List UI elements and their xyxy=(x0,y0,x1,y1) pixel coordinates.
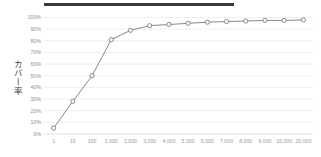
x-axis-tick-label: 100 xyxy=(88,138,97,144)
data-point-marker xyxy=(128,28,132,32)
y-axis-tick-label: 40% xyxy=(31,84,42,90)
y-axis-tick-label: 50% xyxy=(31,73,42,79)
x-axis-tick-label: 1,000 xyxy=(105,138,118,144)
data-point-marker xyxy=(71,99,75,103)
x-axis-tick-label: 10 xyxy=(70,138,76,144)
series-markers-group xyxy=(52,18,306,131)
data-point-marker xyxy=(90,74,94,78)
y-axis-tick-label: 60% xyxy=(31,61,42,67)
data-point-marker xyxy=(244,19,248,23)
x-axis-tick-label: 8,000 xyxy=(239,138,252,144)
data-point-marker xyxy=(186,21,190,25)
chart-figure: カバー率 0%10%20%30%40%50%60%70%80%90%100% 1… xyxy=(0,0,321,157)
gridlines-group xyxy=(44,18,313,135)
y-axis-tick-label: 20% xyxy=(31,108,42,114)
data-point-marker xyxy=(282,18,286,22)
x-axis-tick-label: 1 xyxy=(52,138,55,144)
y-axis-tick-label: 30% xyxy=(31,96,42,102)
y-axis-tick-label: 0% xyxy=(34,131,42,137)
x-axis-tick-label: 7,000 xyxy=(220,138,233,144)
line-chart-plot: 0%10%20%30%40%50%60%70%80%90%100% 110100… xyxy=(0,0,321,157)
x-axis-tick-label: 9,000 xyxy=(258,138,271,144)
x-axis-tick-labels: 1101001,0002,0003,0004,0005,0006,0007,00… xyxy=(52,138,311,144)
x-axis-tick-label: 5,000 xyxy=(182,138,195,144)
y-axis-tick-label: 100% xyxy=(28,14,42,20)
data-point-marker xyxy=(205,20,209,24)
x-axis-tick-label: 6,000 xyxy=(201,138,214,144)
y-axis-tick-label: 80% xyxy=(31,38,42,44)
data-point-marker xyxy=(148,24,152,28)
y-axis-tick-label: 70% xyxy=(31,49,42,55)
data-point-marker xyxy=(52,126,56,130)
y-axis-tick-label: 90% xyxy=(31,26,42,32)
y-axis-tick-label: 10% xyxy=(31,119,42,125)
x-axis-tick-label: 20,000 xyxy=(295,138,311,144)
x-axis-tick-label: 2,000 xyxy=(124,138,137,144)
x-axis-tick-label: 10,000 xyxy=(276,138,292,144)
data-point-marker xyxy=(301,18,305,22)
data-point-marker xyxy=(224,19,228,23)
data-point-marker xyxy=(167,22,171,26)
data-point-marker xyxy=(109,38,113,42)
data-point-marker xyxy=(263,18,267,22)
y-axis-tick-labels: 0%10%20%30%40%50%60%70%80%90%100% xyxy=(28,14,42,136)
x-axis-tick-label: 3,000 xyxy=(143,138,156,144)
x-axis-tick-label: 4,000 xyxy=(162,138,175,144)
